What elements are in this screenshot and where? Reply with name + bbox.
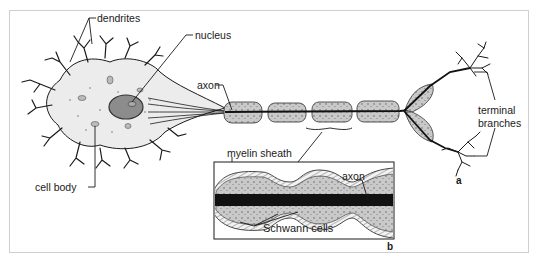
label-inset-axon: axon <box>342 170 365 182</box>
label-terminal-branches-2: branches <box>478 117 521 129</box>
label-schwann-cells: Schwann cells <box>263 222 333 234</box>
nucleus-shape <box>109 95 143 119</box>
label-terminal-branches-1: terminal <box>478 104 515 116</box>
label-cell-body: cell body <box>35 181 76 193</box>
label-dendrites: dendrites <box>97 12 140 24</box>
axon-bifurcation <box>404 68 470 152</box>
panel-label-a: a <box>456 175 462 186</box>
panel-label-b: b <box>387 241 393 252</box>
label-nucleus: nucleus <box>195 29 231 41</box>
label-axon: axon <box>197 79 220 91</box>
label-myelin-sheath: myelin sheath <box>227 147 292 159</box>
